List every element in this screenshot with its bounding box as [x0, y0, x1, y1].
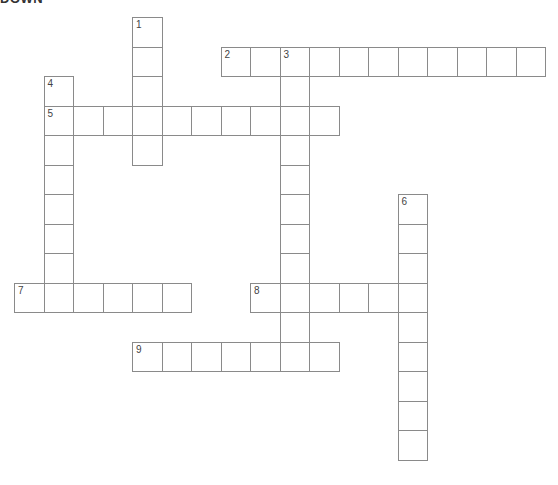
crossword-cell[interactable]: 8	[250, 283, 281, 314]
clue-number: 7	[18, 285, 24, 296]
clue-number: 1	[136, 19, 142, 30]
crossword-cell[interactable]	[250, 47, 281, 78]
crossword-cell[interactable]	[191, 342, 222, 373]
crossword-cell[interactable]	[309, 106, 340, 137]
crossword-cell[interactable]	[280, 194, 311, 225]
crossword-cell[interactable]	[132, 106, 163, 137]
crossword-cell[interactable]	[368, 47, 399, 78]
crossword-cell[interactable]: 7	[14, 283, 45, 314]
crossword-cell[interactable]	[44, 165, 75, 196]
crossword-cell[interactable]: 2	[221, 47, 252, 78]
crossword-cell[interactable]	[398, 430, 429, 461]
crossword-cell[interactable]	[516, 47, 547, 78]
crossword-cell[interactable]	[368, 283, 399, 314]
crossword-cell[interactable]	[398, 401, 429, 432]
clue-number: 5	[48, 108, 54, 119]
crossword-cell[interactable]	[427, 47, 458, 78]
crossword-cell[interactable]	[280, 76, 311, 107]
crossword-cell[interactable]	[309, 283, 340, 314]
crossword-cell[interactable]	[221, 106, 252, 137]
crossword-cell[interactable]	[103, 283, 134, 314]
crossword-cell[interactable]	[398, 47, 429, 78]
crossword-cell[interactable]	[280, 106, 311, 137]
crossword-cell[interactable]: 1	[132, 17, 163, 48]
crossword-cell[interactable]	[280, 283, 311, 314]
crossword-cell[interactable]: 6	[398, 194, 429, 225]
crossword-cell[interactable]	[280, 312, 311, 343]
crossword-cell[interactable]	[44, 283, 75, 314]
crossword-cell[interactable]	[280, 224, 311, 255]
crossword-cell[interactable]	[44, 135, 75, 166]
crossword-cell[interactable]	[132, 283, 163, 314]
clue-number: 8	[254, 285, 260, 296]
crossword-cell[interactable]	[398, 312, 429, 343]
clue-number: 2	[225, 49, 231, 60]
crossword-cell[interactable]	[250, 106, 281, 137]
crossword-cell[interactable]	[457, 47, 488, 78]
crossword-cell[interactable]	[132, 135, 163, 166]
crossword-cell[interactable]	[44, 253, 75, 284]
crossword-cell[interactable]	[44, 194, 75, 225]
crossword-cell[interactable]	[221, 342, 252, 373]
crossword-cell[interactable]	[280, 135, 311, 166]
crossword-cell[interactable]	[73, 106, 104, 137]
crossword-cell[interactable]	[191, 106, 222, 137]
crossword-cell[interactable]	[250, 342, 281, 373]
crossword-cell[interactable]	[162, 342, 193, 373]
crossword-cell[interactable]	[73, 283, 104, 314]
crossword-cell[interactable]	[280, 165, 311, 196]
crossword-cell[interactable]	[339, 283, 370, 314]
crossword-cell[interactable]	[162, 106, 193, 137]
crossword-cell[interactable]	[132, 47, 163, 78]
crossword-cell[interactable]	[162, 283, 193, 314]
clue-number: 9	[136, 344, 142, 355]
crossword-cell[interactable]	[309, 47, 340, 78]
crossword-cell[interactable]	[44, 224, 75, 255]
crossword-cell[interactable]	[398, 283, 429, 314]
crossword-cell[interactable]	[339, 47, 370, 78]
clue-number: 3	[284, 49, 290, 60]
crossword-cell[interactable]	[486, 47, 517, 78]
clue-number: 6	[402, 196, 408, 207]
crossword-cell[interactable]: 4	[44, 76, 75, 107]
crossword-cell[interactable]	[398, 371, 429, 402]
crossword-cell[interactable]	[398, 224, 429, 255]
crossword-cell[interactable]: 9	[132, 342, 163, 373]
crossword-cell[interactable]	[280, 342, 311, 373]
crossword-cell[interactable]: 5	[44, 106, 75, 137]
clue-number: 4	[48, 78, 54, 89]
crossword-cell[interactable]: 3	[280, 47, 311, 78]
crossword-cell[interactable]	[398, 253, 429, 284]
crossword-cell[interactable]	[309, 342, 340, 373]
crossword-cell[interactable]	[280, 253, 311, 284]
crossword-cell[interactable]	[398, 342, 429, 373]
crossword-cell[interactable]	[103, 106, 134, 137]
crossword-cell[interactable]	[132, 76, 163, 107]
crossword-grid: 123456789	[0, 0, 558, 485]
